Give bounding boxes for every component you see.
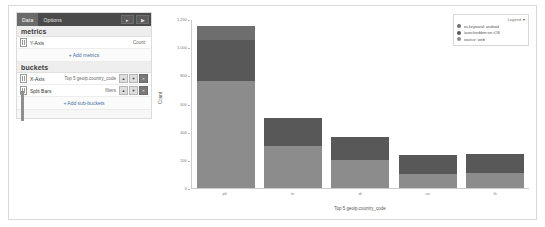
y-axis-tick-mark [188, 105, 190, 106]
chart-area: Legend▾ os.keyword: android launcherbbm:… [159, 12, 531, 215]
x-axis-tick-label: us [399, 191, 457, 196]
x-axis-title: Top 5 geoip.country_code [191, 206, 529, 211]
add-sub-buckets-label: Add sub-buckets [67, 100, 104, 106]
add-metrics-row[interactable]: +Add metrics [17, 49, 151, 62]
bucket-actions: ▲ ▼ × [119, 86, 148, 95]
y-axis-tick-mark [188, 133, 190, 134]
bucket-down-button[interactable]: ▼ [129, 86, 138, 95]
bucket-label: Split Bars [30, 88, 51, 94]
apply-button[interactable]: ▶ [136, 15, 149, 24]
bar-segment[interactable] [399, 174, 457, 188]
sub-bucket-indicator [21, 91, 24, 121]
tab-options[interactable]: Options [38, 13, 67, 26]
bucket-remove-button[interactable]: × [139, 74, 148, 83]
bucket-remove-button[interactable]: × [139, 86, 148, 95]
y-axis-tick-label: 800 [165, 73, 187, 78]
drag-handle-icon[interactable] [20, 38, 27, 47]
bucket-value: Top 5 geoip.country_code [64, 76, 116, 81]
y-axis-tick-mark [188, 20, 190, 21]
y-axis-tick-label: 0 [165, 186, 187, 191]
aggregation-editor-panel: Data Options ▸ ▶ metrics Y-Axis Count +A… [16, 12, 152, 119]
y-axis-tick-label: 1,000 [165, 45, 187, 50]
add-metrics-label: Add metrics [73, 52, 99, 58]
x-axis-ticks: phinidusth [191, 191, 529, 199]
tab-data[interactable]: Data [17, 13, 38, 26]
y-axis-tick-label: 600 [165, 102, 187, 107]
stacked-bar[interactable] [197, 26, 255, 188]
plus-icon: + [69, 52, 72, 58]
x-axis-tick-label: th [466, 191, 524, 196]
plus-icon: + [63, 100, 66, 106]
stacked-bar[interactable] [264, 118, 322, 188]
y-axis-tick-mark [188, 48, 190, 49]
add-sub-buckets-row[interactable]: +Add sub-buckets [17, 97, 151, 110]
bar-segment[interactable] [331, 137, 389, 160]
bar-column [466, 20, 524, 188]
metrics-section-title: metrics [17, 26, 151, 37]
bar-segment[interactable] [197, 40, 255, 81]
metric-row-y-axis[interactable]: Y-Axis Count [17, 37, 151, 49]
bar-column [264, 20, 322, 188]
visualization-editor-app: Data Options ▸ ▶ metrics Y-Axis Count +A… [8, 5, 537, 220]
bar-segment[interactable] [466, 154, 524, 174]
bucket-up-button[interactable]: ▲ [119, 86, 128, 95]
stacked-bar[interactable] [399, 155, 457, 188]
bucket-value: filters [105, 88, 116, 93]
y-axis-tick-label: 1,200 [165, 17, 187, 22]
tabbar-spacer [67, 13, 121, 26]
y-axis-tick-mark [188, 161, 190, 162]
bar-segment[interactable] [399, 155, 457, 174]
y-axis-tick-mark [188, 189, 190, 190]
bucket-row-split-bars[interactable]: Split Bars filters ▲ ▼ × [17, 85, 151, 97]
drag-handle-icon[interactable] [20, 74, 27, 83]
y-axis-tick-label: 200 [165, 158, 187, 163]
bar-column [399, 20, 457, 188]
collapse-button[interactable]: ▸ [121, 15, 134, 24]
x-axis-tick-label: in [263, 191, 321, 196]
bar-segment[interactable] [466, 173, 524, 188]
add-sub-buckets-link[interactable]: +Add sub-buckets [63, 100, 104, 106]
bucket-label: X-Axis [30, 76, 44, 82]
bar-series-container [192, 20, 529, 188]
stacked-bar[interactable] [466, 154, 524, 188]
stacked-bar[interactable] [331, 137, 389, 188]
y-axis-title: Count [158, 92, 163, 104]
bar-segment[interactable] [197, 26, 255, 40]
bucket-up-button[interactable]: ▲ [119, 74, 128, 83]
bucket-actions: ▲ ▼ × [119, 74, 148, 83]
x-axis-tick-label: id [331, 191, 389, 196]
y-axis-tick-mark [188, 76, 190, 77]
bar-segment[interactable] [197, 81, 255, 188]
editor-tabbar: Data Options ▸ ▶ [17, 13, 151, 26]
bar-column [197, 20, 255, 188]
metric-label: Y-Axis [30, 40, 44, 46]
bar-segment[interactable] [264, 118, 322, 146]
add-metrics-link[interactable]: +Add metrics [69, 52, 99, 58]
bar-segment[interactable] [264, 146, 322, 188]
metric-value: Count [133, 40, 145, 45]
bucket-row-x-axis[interactable]: X-Axis Top 5 geoip.country_code ▲ ▼ × [17, 73, 151, 85]
plot-area [191, 20, 529, 189]
bar-column [331, 20, 389, 188]
bucket-down-button[interactable]: ▼ [129, 74, 138, 83]
bar-segment[interactable] [331, 160, 389, 188]
x-axis-tick-label: ph [196, 191, 254, 196]
y-axis-tick-label: 400 [165, 130, 187, 135]
buckets-section-title: buckets [17, 62, 151, 73]
